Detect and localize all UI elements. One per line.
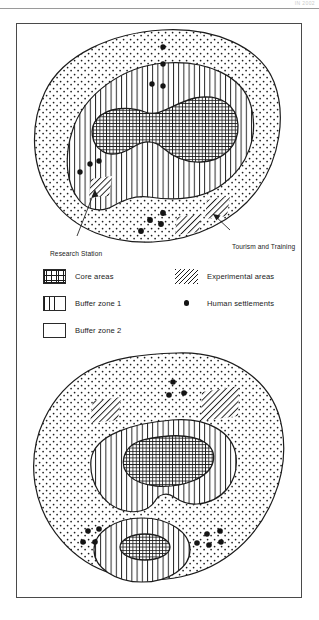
settlement-dot	[87, 161, 92, 166]
settlement-dot	[160, 210, 166, 216]
figure-frame: Research Station Tourism and Training Co…	[16, 23, 302, 598]
legend: Core areas Buffer zone 1 Buffer zone 2 E…	[17, 264, 301, 336]
settlement-dot	[158, 221, 164, 227]
legend-column-left: Core areas Buffer zone 1 Buffer zone 2	[43, 264, 121, 345]
settlement-dot	[170, 379, 176, 385]
settlement-dot-icon	[184, 300, 190, 306]
human-settlements-swatch-icon	[175, 296, 198, 311]
legend-label: Buffer zone 2	[75, 326, 121, 335]
figure-page: IN 2002	[0, 0, 319, 620]
settlement-dot	[147, 217, 153, 223]
experimental-area-left-bottom	[90, 397, 121, 423]
settlement-dot	[149, 81, 154, 86]
settlement-dot	[160, 44, 165, 49]
legend-item-buffer-zone-2: Buffer zone 2	[43, 318, 121, 342]
legend-label: Core areas	[75, 272, 114, 281]
legend-item-human-settlements: Human settlements	[175, 291, 274, 315]
experimental-area-right-bottom	[201, 386, 239, 421]
settlement-dot	[96, 526, 102, 532]
buffer-zone-2-swatch-icon	[43, 323, 66, 338]
settlement-dot	[160, 61, 165, 66]
map-bottom-dual-core	[17, 342, 301, 597]
experimental-areas-swatch-icon	[175, 269, 198, 284]
map-top-single-core	[17, 24, 301, 256]
settlement-dot	[138, 228, 144, 234]
annotation-research-station: Research Station	[50, 250, 102, 257]
settlement-dot	[85, 528, 91, 534]
legend-item-buffer-zone-1: Buffer zone 1	[43, 291, 121, 315]
settlement-dot	[92, 539, 98, 545]
legend-item-core-areas: Core areas	[43, 264, 121, 288]
settlement-dot	[80, 539, 86, 545]
legend-column-right: Experimental areas Human settlements	[175, 264, 274, 318]
settlement-dot	[217, 528, 223, 534]
settlement-dot	[204, 531, 210, 537]
legend-item-experimental-areas: Experimental areas	[175, 264, 274, 288]
settlement-dot	[206, 542, 212, 548]
settlement-dot	[166, 392, 172, 398]
settlement-dot	[194, 540, 200, 546]
core-areas-swatch-icon	[43, 269, 66, 284]
experimental-area-research-station-top	[89, 176, 112, 198]
settlement-dot	[96, 158, 101, 163]
corner-note: IN 2002	[295, 0, 315, 6]
settlement-dot	[160, 83, 165, 88]
settlement-dot	[181, 390, 187, 396]
annotation-tourism-and-training: Tourism and Training	[232, 243, 295, 250]
zone-core-lower-bottom	[120, 534, 170, 560]
settlement-dot	[77, 169, 82, 174]
settlement-dot	[218, 539, 224, 545]
legend-label: Experimental areas	[207, 272, 274, 281]
experimental-area-tourism-lower-top	[175, 214, 201, 235]
legend-label: Human settlements	[207, 299, 274, 308]
legend-label: Buffer zone 1	[75, 299, 121, 308]
top-divider-rule	[0, 8, 319, 9]
buffer-zone-1-swatch-icon	[43, 296, 66, 311]
